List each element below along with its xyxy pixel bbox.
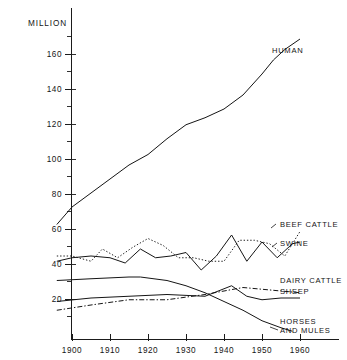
series-label-horses-line2: AND MULES: [280, 326, 331, 335]
series-line-swine: [57, 235, 300, 270]
y-tick-label-80: 80: [52, 190, 62, 199]
y-axis-unit-label: MILLION: [28, 19, 67, 28]
y-tick-label-140: 140: [47, 85, 62, 94]
y-tick-label-160: 160: [47, 50, 62, 59]
x-tick-label-1910: 1910: [100, 346, 120, 355]
line-chart: 160 140 120 100 80 60 40 20 MILLION 1900…: [0, 0, 347, 360]
series-label-beef-cattle: BEEF CATTLE: [280, 220, 338, 229]
y-tick-labels: 160 140 120 100 80 60 40 20: [47, 50, 62, 304]
y-tick-label-20: 20: [52, 295, 62, 304]
x-tick-label-1940: 1940: [214, 346, 234, 355]
x-tick-label-1960: 1960: [290, 346, 310, 355]
series-line-horses-and-mules: [57, 277, 293, 331]
x-tick-labels: 1900 1910 1920 1930 1940 1950 1960: [62, 346, 310, 355]
series-label-sheep: SHEEP: [280, 287, 309, 296]
y-tick-label-120: 120: [47, 120, 62, 129]
series-label-dairy-cattle: DAIRY CATTLE: [280, 276, 342, 285]
chart-container: 160 140 120 100 80 60 40 20 MILLION 1900…: [0, 0, 347, 360]
series-layer: [57, 39, 300, 331]
leader-beef-cattle: [271, 224, 276, 228]
y-tick-label-100: 100: [47, 155, 62, 164]
series-label-swine: SWINE: [280, 239, 308, 248]
x-tick-label-1950: 1950: [252, 346, 272, 355]
series-label-human: HUMAN: [272, 46, 303, 55]
series-line-dairy-cattle: [57, 288, 300, 311]
leader-swine: [272, 243, 277, 247]
series-line-beef-cattle: [57, 232, 300, 262]
leader-horses-and-mules: [270, 327, 278, 330]
y-tick-marks: [65, 37, 76, 317]
x-tick-label-1900: 1900: [62, 346, 82, 355]
y-tick-label-60: 60: [52, 225, 62, 234]
series-label-horses-line1: HORSES: [280, 317, 316, 326]
series-line-sheep: [57, 286, 300, 302]
series-labels: HUMAN BEEF CATTLE SWINE DAIRY CATTLE SHE…: [270, 46, 342, 335]
series-line-human: [57, 39, 300, 225]
x-tick-label-1920: 1920: [138, 346, 158, 355]
x-tick-label-1930: 1930: [176, 346, 196, 355]
